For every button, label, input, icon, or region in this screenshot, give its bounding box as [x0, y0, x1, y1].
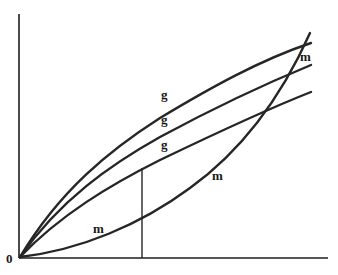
m-middle-label: m	[212, 168, 223, 183]
g-lower-label: g	[161, 137, 168, 152]
g-top-label: g	[161, 87, 168, 102]
m-top-label: m	[300, 49, 311, 64]
g-middle-label: g	[161, 112, 168, 127]
diagram-figure: 0 g g g m m m	[0, 0, 338, 275]
origin-label: 0	[6, 251, 13, 266]
diagram-canvas: 0 g g g m m m	[0, 0, 338, 275]
m-lower-label: m	[93, 221, 104, 236]
